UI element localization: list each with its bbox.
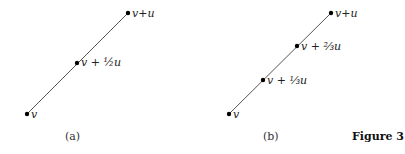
figure-canvas <box>0 0 405 154</box>
label-a-vu: v+u <box>132 8 155 19</box>
label-a-v: v <box>31 109 37 120</box>
label-b-vu: v+u <box>335 8 358 19</box>
label-a-half: v + ½u <box>81 57 121 68</box>
point-b-vu <box>329 11 333 15</box>
caption-b: (b) <box>263 131 279 142</box>
point-a-vu <box>126 11 130 15</box>
point-b-twothirds <box>295 44 299 48</box>
label-b-v: v <box>233 109 239 120</box>
point-a-half <box>75 61 79 65</box>
segment-b <box>229 13 331 114</box>
figure-title: Figure 3 <box>352 131 404 142</box>
point-b-third <box>261 78 265 82</box>
point-b-v <box>227 112 231 116</box>
caption-a: (a) <box>65 131 80 142</box>
label-b-third: v + ⅓u <box>267 75 307 86</box>
label-b-twothirds: v + ⅔u <box>301 41 341 52</box>
point-a-v <box>25 112 29 116</box>
